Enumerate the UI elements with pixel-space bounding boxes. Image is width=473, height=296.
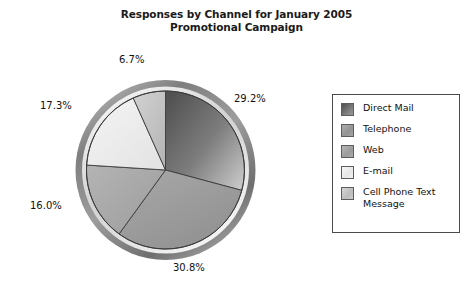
legend-swatch-web [341, 145, 354, 158]
legend-swatch-cell-phone-text-message [341, 187, 354, 200]
legend-item-direct-mail[interactable]: Direct Mail [341, 102, 459, 116]
legend-item-cell-phone-text-message[interactable]: Cell Phone Text Message [341, 186, 459, 209]
legend-label-telephone: Telephone [363, 123, 411, 135]
chart-title-line-1: Responses by Channel for January 2005 [0, 8, 473, 21]
legend-swatch-direct-mail [341, 103, 354, 116]
legend-item-telephone[interactable]: Telephone [341, 123, 459, 137]
pie-graphic [73, 77, 258, 262]
legend-label-email: E-mail [363, 165, 393, 177]
pie-label-web: 16.0% [30, 200, 62, 211]
pie-label-email: 17.3% [40, 100, 72, 111]
pie-label-telephone: 30.8% [173, 262, 205, 273]
legend-label-direct-mail: Direct Mail [363, 102, 414, 114]
legend-label-web: Web [363, 144, 384, 156]
legend-item-email[interactable]: E-mail [341, 165, 459, 179]
chart-title-line-2: Promotional Campaign [0, 21, 473, 34]
chart-title: Responses by Channel for January 2005 Pr… [0, 8, 473, 33]
legend-item-web[interactable]: Web [341, 144, 459, 158]
pie-label-direct-mail: 29.2% [234, 93, 266, 104]
pie-chart-figure: Responses by Channel for January 2005 Pr… [0, 0, 473, 296]
pie-svg [73, 77, 258, 262]
chart-legend: Direct Mail Telephone Web E-mail Cell Ph… [332, 94, 460, 233]
pie-label-cell-phone-text-message: 6.7% [119, 54, 144, 65]
legend-swatch-email [341, 166, 354, 179]
legend-swatch-telephone [341, 124, 354, 137]
legend-label-cell-phone-text-message: Cell Phone Text Message [363, 186, 459, 209]
